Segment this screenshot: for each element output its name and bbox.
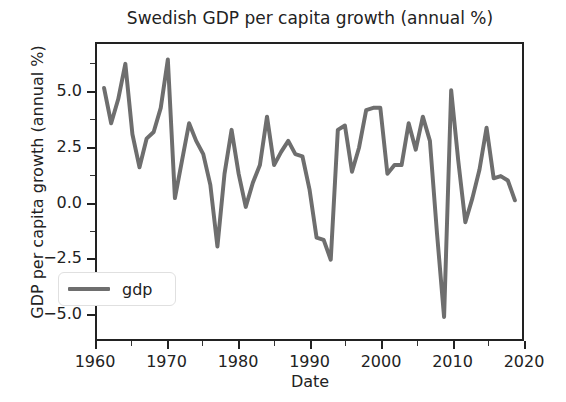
chart-legend[interactable]: gdp xyxy=(58,272,176,306)
y-tick-mark xyxy=(87,258,95,260)
y-tick-label: 5.0 xyxy=(20,83,82,99)
x-minor-tick-mark xyxy=(131,341,132,346)
y-tick-label: −5.0 xyxy=(20,306,82,322)
chart-title: Swedish GDP per capita growth (annual %) xyxy=(95,8,525,28)
x-minor-tick-mark xyxy=(345,341,346,346)
x-tick-label: 2010 xyxy=(413,352,493,371)
y-tick-mark xyxy=(87,91,95,93)
y-tick-mark xyxy=(87,147,95,149)
x-tick-mark xyxy=(453,341,455,349)
x-minor-tick-mark xyxy=(274,341,275,346)
x-axis-label: Date xyxy=(95,372,525,391)
chart-figure: Swedish GDP per capita growth (annual %)… xyxy=(0,0,566,402)
y-tick-mark xyxy=(87,203,95,205)
x-minor-tick-mark xyxy=(417,341,418,346)
x-tick-label: 2020 xyxy=(484,352,564,371)
y-tick-label: −2.5 xyxy=(20,250,82,266)
x-tick-mark xyxy=(381,341,383,349)
x-tick-mark xyxy=(95,341,97,349)
x-tick-label: 1970 xyxy=(127,352,207,371)
x-tick-mark xyxy=(167,341,169,349)
x-tick-label: 2000 xyxy=(341,352,421,371)
x-tick-mark xyxy=(524,341,526,349)
x-minor-tick-mark xyxy=(202,341,203,346)
x-tick-mark xyxy=(238,341,240,349)
x-tick-label: 1960 xyxy=(55,352,135,371)
x-tick-label: 1990 xyxy=(270,352,350,371)
legend-label-gdp: gdp xyxy=(122,280,152,299)
legend-swatch-gdp xyxy=(68,287,110,291)
y-tick-mark xyxy=(87,314,95,316)
y-tick-label: 0.0 xyxy=(20,195,82,211)
x-tick-label: 1980 xyxy=(198,352,278,371)
y-tick-label: 2.5 xyxy=(20,139,82,155)
x-tick-mark xyxy=(310,341,312,349)
x-minor-tick-mark xyxy=(488,341,489,346)
